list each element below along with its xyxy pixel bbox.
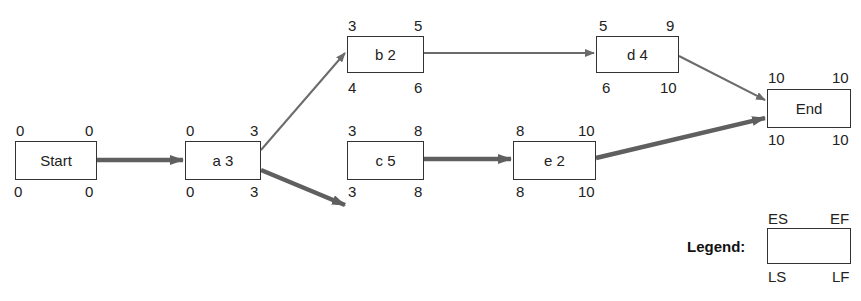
- edge-e-end: [596, 118, 765, 158]
- node-start: Start: [15, 141, 97, 180]
- start-es: 0: [16, 123, 24, 138]
- end-es: 10: [768, 70, 785, 85]
- e-ef: 10: [578, 123, 595, 138]
- node-label: e 2: [544, 152, 565, 169]
- d-lf: 10: [660, 80, 677, 95]
- b-es: 3: [348, 18, 356, 33]
- node-label: Start: [40, 152, 72, 169]
- e-es: 8: [516, 123, 524, 138]
- node-label: End: [796, 100, 823, 117]
- end-lf: 10: [832, 132, 849, 147]
- node-e: e 2: [513, 141, 596, 180]
- b-ef: 5: [414, 18, 422, 33]
- e-ls: 8: [516, 184, 524, 199]
- node-c: c 5: [347, 141, 424, 180]
- d-ef: 9: [666, 18, 674, 33]
- node-label: a 3: [213, 152, 234, 169]
- c-ef: 8: [414, 123, 422, 138]
- node-a: a 3: [185, 141, 261, 180]
- a-ef: 3: [250, 123, 258, 138]
- a-es: 0: [186, 123, 194, 138]
- c-lf: 8: [414, 184, 422, 199]
- c-ls: 3: [348, 184, 356, 199]
- edge-a-b: [261, 53, 345, 150]
- c-es: 3: [348, 123, 356, 138]
- d-es: 5: [599, 18, 607, 33]
- end-ef: 10: [832, 70, 849, 85]
- start-ls: 0: [14, 184, 22, 199]
- network-edges: [0, 0, 861, 301]
- node-end: End: [767, 89, 851, 128]
- b-lf: 6: [414, 80, 422, 95]
- edge-d-end: [679, 56, 765, 100]
- a-ls: 0: [186, 184, 194, 199]
- start-lf: 0: [85, 184, 93, 199]
- legend-es: ES: [768, 211, 788, 226]
- edge-a-c: [261, 170, 345, 205]
- node-b: b 2: [347, 36, 424, 73]
- node-d: d 4: [596, 36, 679, 73]
- node-label: b 2: [375, 46, 396, 63]
- node-label: c 5: [375, 152, 395, 169]
- legend-ef: EF: [830, 211, 849, 226]
- b-ls: 4: [348, 80, 356, 95]
- legend-lf: LF: [832, 269, 850, 284]
- d-ls: 6: [602, 80, 610, 95]
- a-lf: 3: [250, 184, 258, 199]
- legend-ls: LS: [768, 269, 786, 284]
- e-lf: 10: [578, 184, 595, 199]
- legend-title: Legend:: [687, 238, 745, 255]
- legend-box: [767, 228, 851, 264]
- start-ef: 0: [85, 123, 93, 138]
- node-label: d 4: [627, 46, 648, 63]
- end-ls: 10: [768, 132, 785, 147]
